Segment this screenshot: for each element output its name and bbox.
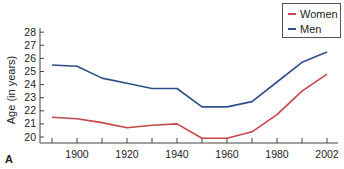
y-axis-title: Age (in years) bbox=[5, 56, 17, 124]
legend-item-women: Women bbox=[288, 6, 338, 22]
x-tick-label: 1920 bbox=[115, 148, 139, 160]
x-tick-label: 1900 bbox=[65, 148, 89, 160]
x-tick-label: 1960 bbox=[215, 148, 239, 160]
y-tick-label: 25 bbox=[24, 65, 36, 77]
chart-legend: Women Men bbox=[282, 3, 341, 38]
series-men bbox=[52, 52, 327, 107]
legend-label-women: Women bbox=[300, 8, 338, 20]
panel-label: A bbox=[5, 153, 13, 165]
y-tick-label: 26 bbox=[24, 52, 36, 64]
women-swatch bbox=[288, 13, 296, 15]
y-tick-label: 22 bbox=[24, 104, 36, 116]
y-tick-label: 28 bbox=[24, 26, 36, 38]
x-tick-label: 1980 bbox=[265, 148, 289, 160]
y-tick-label: 20 bbox=[24, 131, 36, 143]
men-swatch bbox=[288, 28, 296, 30]
y-tick-label: 24 bbox=[24, 78, 36, 90]
x-tick-label: 2002 bbox=[315, 148, 339, 160]
legend-item-men: Men bbox=[288, 21, 321, 37]
series-women bbox=[52, 74, 327, 138]
x-tick-label: 1940 bbox=[165, 148, 189, 160]
legend-label-men: Men bbox=[300, 23, 321, 35]
y-tick-label: 23 bbox=[24, 91, 36, 103]
y-tick-label: 21 bbox=[24, 117, 36, 129]
y-tick-label: 27 bbox=[24, 39, 36, 51]
